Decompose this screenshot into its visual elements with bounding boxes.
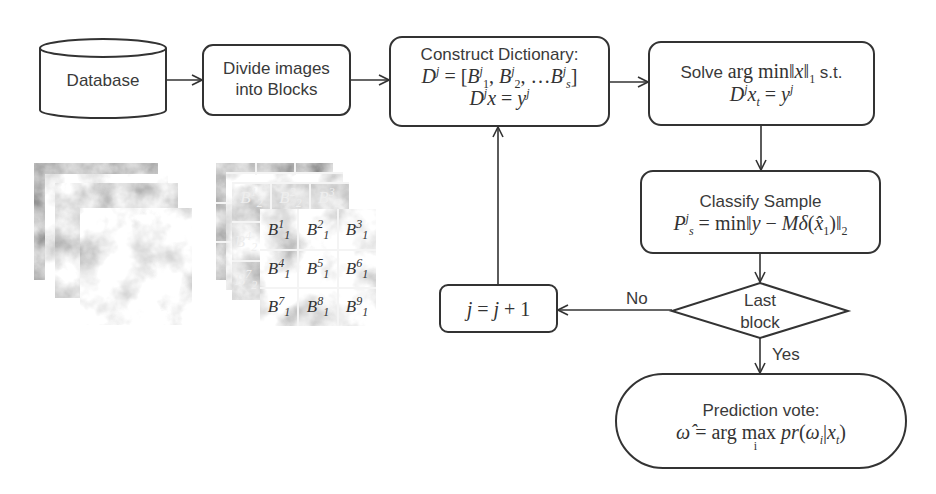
block-b1-9: B91 bbox=[338, 297, 376, 317]
classify-label: Classify Sample Pjs = min‖y − Mδ(x̂1)‖2 bbox=[641, 191, 880, 234]
construct-eq2: Djx = yj bbox=[390, 87, 609, 109]
decision-label: Last block bbox=[672, 290, 848, 334]
block-b1-3: B31 bbox=[338, 220, 376, 240]
block-b2-4: B42 bbox=[232, 232, 260, 252]
block-b1-6: B61 bbox=[338, 259, 376, 279]
construct-title: Construct Dictionary: bbox=[390, 44, 609, 65]
prediction-title: Prediction vote: bbox=[616, 400, 906, 421]
block-b1-5: B51 bbox=[298, 259, 338, 279]
classify-eq: Pjs = min‖y − Mδ(x̂1)‖2 bbox=[641, 212, 880, 234]
solve-line1: Solve arg min‖x‖1 s.t. bbox=[649, 60, 874, 83]
prediction-label: Prediction vote: ω̂ = arg maxi pr(ωi|xt) bbox=[616, 400, 906, 443]
block-b2-1: B12 bbox=[232, 188, 271, 208]
block-b2-7: B72 bbox=[232, 270, 260, 290]
block-b1-1: B11 bbox=[260, 220, 298, 240]
block-b1-8: B81 bbox=[298, 297, 338, 317]
increment-label: j = j + 1 bbox=[440, 298, 557, 320]
block-b2-2: B22 bbox=[271, 188, 310, 208]
edge-label-yes: Yes bbox=[772, 344, 800, 365]
solve-line2: Djxt = yj bbox=[649, 83, 874, 105]
prediction-eq: ω̂ = arg maxi pr(ωi|xt) bbox=[616, 421, 906, 443]
divide-label: Divide images into Blocks bbox=[203, 58, 350, 100]
decision-line2: block bbox=[672, 312, 848, 334]
construct-eq1: Dj = [Bj1, Bj2, …Bjs] bbox=[390, 65, 609, 87]
database-label: Database bbox=[40, 70, 166, 91]
construct-label: Construct Dictionary: Dj = [Bj1, Bj2, …B… bbox=[390, 44, 609, 109]
divide-label-line2: into Blocks bbox=[203, 79, 350, 100]
decision-line1: Last bbox=[672, 290, 848, 312]
block-b1-4: B41 bbox=[260, 259, 298, 279]
flowchart-diagram: Database Divide images into Blocks Const… bbox=[0, 0, 936, 494]
block-b1-7: B71 bbox=[260, 297, 298, 317]
divide-label-line1: Divide images bbox=[203, 58, 350, 79]
classify-title: Classify Sample bbox=[641, 191, 880, 212]
solve-label: Solve arg min‖x‖1 s.t. Djxt = yj bbox=[649, 60, 874, 105]
block-b1-2: B21 bbox=[298, 220, 338, 240]
image-stack-illustration bbox=[34, 163, 192, 325]
edge-label-no: No bbox=[626, 288, 648, 309]
block-b2-3: B32 bbox=[310, 188, 349, 208]
